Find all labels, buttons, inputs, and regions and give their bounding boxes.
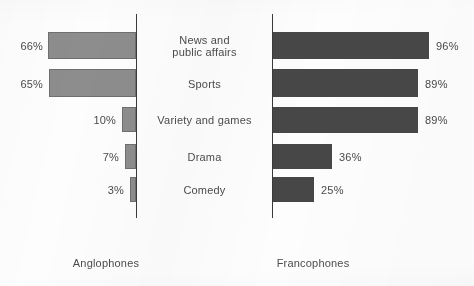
category-label-variety-and-games: Variety and games: [137, 114, 272, 126]
value-label-left-news-and-public-affairs: 66%: [0, 41, 43, 52]
value-label-right-variety-and-games: 89%: [425, 115, 448, 126]
group-label-anglophones: Anglophones: [36, 257, 176, 269]
value-label-left-sports: 65%: [0, 79, 43, 90]
bar-left-sports: [49, 69, 136, 97]
category-label-sports: Sports: [137, 78, 272, 90]
bar-right-variety-and-games: [273, 107, 418, 133]
bar-left-variety-and-games: [122, 107, 136, 132]
value-label-right-sports: 89%: [425, 79, 448, 90]
bar-right-drama: [273, 144, 332, 169]
value-label-right-drama: 36%: [339, 152, 362, 163]
category-label-news-and-public-affairs: News and public affairs: [137, 34, 272, 58]
diverging-bar-chart: 66% 65% 10% 7% 3% 96% 89% 89% 36% 25% Ne…: [0, 0, 474, 286]
bar-left-comedy: [130, 177, 136, 202]
category-label-comedy: Comedy: [137, 184, 272, 196]
bar-right-sports: [273, 69, 418, 97]
value-label-left-drama: 7%: [76, 152, 119, 163]
value-label-right-comedy: 25%: [321, 185, 344, 196]
bar-left-drama: [125, 144, 136, 169]
value-label-left-comedy: 3%: [81, 185, 124, 196]
category-label-drama: Drama: [137, 151, 272, 163]
bar-right-comedy: [273, 177, 314, 202]
bar-right-news-and-public-affairs: [273, 32, 429, 59]
value-label-right-news-and-public-affairs: 96%: [436, 41, 459, 52]
bar-left-news-and-public-affairs: [48, 32, 136, 59]
value-label-left-variety-and-games: 10%: [73, 115, 116, 126]
category-label-line-1: News and: [137, 34, 272, 46]
category-label-line-2: public affairs: [137, 46, 272, 58]
group-label-francophones: Francophones: [238, 257, 388, 269]
